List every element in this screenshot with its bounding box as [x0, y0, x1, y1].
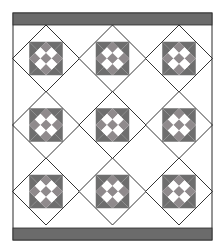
quilt-pattern [0, 0, 224, 252]
star-blocks [12, 25, 212, 225]
border-bottom [13, 228, 212, 240]
quilt-image [0, 0, 224, 252]
border-top [13, 13, 212, 25]
